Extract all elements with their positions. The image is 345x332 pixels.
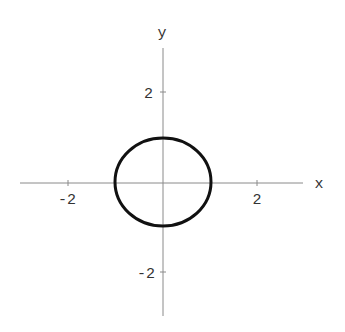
y-tick-label-pos2: 2 (144, 86, 153, 103)
x-tick-label-neg2: -2 (58, 192, 76, 209)
x-axis-label: x (314, 176, 323, 193)
y-axis-label: y (157, 25, 166, 42)
x-tick-label-pos2: 2 (252, 192, 261, 209)
y-tick-label-neg2: -2 (137, 266, 155, 283)
plot-area: -2 2 2 -2 y x (0, 0, 345, 332)
